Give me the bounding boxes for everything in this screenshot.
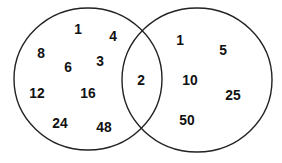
intersection-value: 2 [137,72,145,87]
left-value: 3 [96,53,104,68]
right-value: 25 [225,87,240,102]
right-value: 50 [179,112,194,127]
right-value: 1 [176,32,184,47]
left-value: 16 [80,85,95,100]
left-value: 8 [37,45,45,60]
left-value: 24 [52,115,67,130]
left-value: 6 [64,59,72,74]
right-value: 5 [219,42,227,57]
left-value: 1 [74,21,82,36]
right-value: 10 [182,72,197,87]
left-value: 48 [96,119,111,134]
left-value: 4 [109,28,117,43]
left-value: 12 [29,85,44,100]
venn-diagram: 1 4 8 6 3 12 16 24 48 2 1 5 10 25 50 [0,0,282,163]
